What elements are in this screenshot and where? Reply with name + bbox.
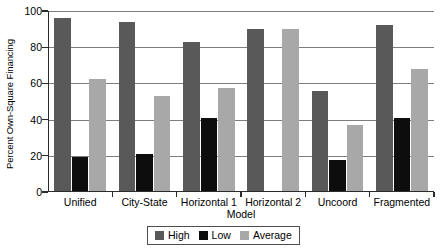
plot-area (48, 11, 434, 192)
plot-frame (48, 11, 434, 192)
x-axis-tick-label: Horizontal 2 (241, 196, 305, 208)
x-axis-tick-label: Uncoord (305, 196, 369, 208)
y-axis-tick-label: 60 (8, 78, 42, 89)
legend-swatch-average (240, 231, 249, 240)
y-axis-tick-label: 40 (8, 115, 42, 126)
legend-label: Low (212, 230, 231, 241)
x-axis-title: Model (48, 208, 434, 220)
bar-chart: Percent Own-Square Financing 02040608010… (0, 0, 440, 252)
chart-legend: HighLowAverage (147, 226, 300, 245)
x-axis-tick-label: Horizontal 1 (177, 196, 241, 208)
legend-item: High (155, 230, 190, 241)
x-axis-tick-label: Unified (48, 196, 112, 208)
legend-swatch-high (155, 231, 164, 240)
legend-swatch-low (199, 231, 208, 240)
x-axis-tick-label: Fragmented (370, 196, 434, 208)
x-axis-tick-label: City-State (112, 196, 176, 208)
y-axis-tick-label: 80 (8, 42, 42, 53)
legend-item: Average (240, 230, 292, 241)
y-axis-title: Percent Own-Square Financing (2, 8, 18, 200)
legend-label: Average (253, 230, 292, 241)
y-axis-tick-label: 100 (8, 6, 42, 17)
y-axis-tick-label: 20 (8, 151, 42, 162)
y-axis-tick-label: 0 (8, 187, 42, 198)
legend-label: High (168, 230, 190, 241)
legend-item: Low (199, 230, 231, 241)
